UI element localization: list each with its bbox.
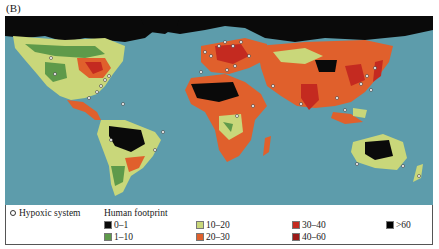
swatch-icon xyxy=(292,221,300,229)
swatch-icon xyxy=(104,233,112,241)
legend-item-label: 0–1 xyxy=(114,220,128,230)
legend-hypoxic-system: Hypoxic system xyxy=(10,208,80,218)
legend-item-over-60: >60 xyxy=(386,220,411,230)
legend-hypoxic-label: Hypoxic system xyxy=(19,208,80,218)
hypoxic-marker-icon xyxy=(10,210,16,216)
panel-label: (B) xyxy=(6,2,21,14)
swatch-icon xyxy=(196,221,204,229)
swatch-icon xyxy=(196,233,204,241)
legend-item-0-1: 0–1 xyxy=(104,220,128,230)
legend-item-label: 40–60 xyxy=(302,232,326,242)
world-map xyxy=(5,16,433,205)
swatch-icon xyxy=(104,221,112,229)
legend-item-label: >60 xyxy=(396,220,411,230)
legend-footprint-title: Human footprint xyxy=(104,208,168,218)
legend-item-40-60: 40–60 xyxy=(292,232,326,242)
swatch-icon xyxy=(386,221,394,229)
legend-item-label: 30–40 xyxy=(302,220,326,230)
legend-item-10-20: 10–20 xyxy=(196,220,230,230)
map-legend: Hypoxic system Human footprint 0–1 1–10 … xyxy=(6,206,432,244)
swatch-icon xyxy=(292,233,300,241)
legend-item-label: 20–30 xyxy=(206,232,230,242)
legend-item-20-30: 20–30 xyxy=(196,232,230,242)
world-map-graphic xyxy=(5,16,433,205)
legend-item-30-40: 30–40 xyxy=(292,220,326,230)
legend-item-1-10: 1–10 xyxy=(104,232,133,242)
legend-item-label: 1–10 xyxy=(114,232,133,242)
legend-item-label: 10–20 xyxy=(206,220,230,230)
